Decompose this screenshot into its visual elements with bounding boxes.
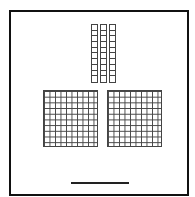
tens-rod — [91, 24, 98, 83]
rod-cell — [110, 76, 115, 82]
hundreds-flat-2 — [107, 90, 162, 147]
diagram-frame — [9, 10, 189, 196]
answer-line[interactable] — [71, 182, 129, 184]
rod-cell — [92, 76, 97, 82]
tens-rod — [100, 24, 107, 83]
rod-cell — [101, 76, 106, 82]
tens-rod — [109, 24, 116, 83]
hundreds-flat-1 — [43, 90, 98, 147]
